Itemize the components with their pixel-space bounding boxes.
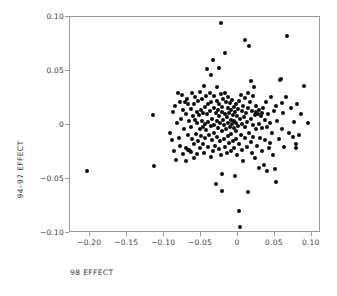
data-point: [249, 117, 253, 121]
data-point: [247, 44, 251, 48]
data-point: [219, 21, 223, 25]
data-point: [294, 146, 298, 150]
data-point: [241, 104, 245, 108]
x-tick-label: 0.10: [302, 238, 320, 247]
data-point: [302, 84, 306, 88]
data-point: [245, 120, 249, 124]
data-point: [175, 121, 179, 125]
data-point: [241, 159, 245, 163]
x-tick-label: −0.15: [114, 238, 138, 247]
data-point: [179, 117, 183, 121]
data-point: [268, 141, 272, 145]
y-tick-label: 0.10: [0, 12, 64, 21]
data-point: [299, 112, 303, 116]
data-point: [200, 97, 204, 101]
data-point: [266, 112, 270, 116]
data-point: [237, 99, 241, 103]
data-point: [211, 58, 215, 62]
data-point: [271, 153, 275, 157]
data-point: [210, 117, 214, 121]
data-point: [215, 85, 219, 89]
x-tick-mark: [89, 232, 90, 236]
data-point: [217, 66, 221, 70]
y-tick-mark: [65, 70, 69, 71]
data-point: [189, 150, 193, 154]
data-point: [297, 133, 301, 137]
data-point: [269, 95, 273, 99]
data-point: [234, 102, 238, 106]
data-point: [243, 96, 247, 100]
data-point: [285, 34, 289, 38]
data-point: [237, 209, 241, 213]
data-point: [292, 120, 296, 124]
data-point: [234, 129, 238, 133]
x-tick-label: 0: [234, 238, 239, 247]
data-point: [252, 85, 256, 89]
data-point: [235, 153, 239, 157]
data-point: [209, 73, 213, 77]
data-point: [295, 102, 299, 106]
data-point: [192, 142, 196, 146]
data-point: [260, 126, 264, 130]
data-point: [208, 109, 212, 113]
data-point: [212, 106, 216, 110]
data-point: [275, 119, 279, 123]
data-point: [194, 132, 198, 136]
data-point: [182, 127, 186, 131]
data-point: [284, 95, 288, 99]
data-point: [260, 149, 264, 153]
data-point: [265, 125, 269, 129]
data-point: [264, 100, 268, 104]
data-point: [274, 180, 278, 184]
data-point: [289, 106, 293, 110]
data-point: [254, 127, 258, 131]
data-point: [168, 131, 172, 135]
data-point: [233, 174, 237, 178]
data-point: [280, 101, 284, 105]
x-tick-label: −0.05: [188, 238, 212, 247]
data-point: [246, 190, 250, 194]
data-point: [187, 119, 191, 123]
data-point: [190, 91, 194, 95]
y-axis-label: 94–97 EFFECT: [16, 125, 25, 215]
data-point: [199, 134, 203, 138]
data-point: [214, 182, 218, 186]
data-point: [196, 139, 200, 143]
data-point: [178, 144, 182, 148]
data-point: [170, 138, 174, 142]
data-point: [257, 166, 261, 170]
data-point: [184, 159, 188, 163]
y-tick-label: 0: [0, 120, 64, 129]
data-point: [204, 94, 208, 98]
data-point: [173, 104, 177, 108]
x-tick-mark: [200, 232, 201, 236]
data-point: [172, 149, 176, 153]
y-tick-mark: [65, 178, 69, 179]
data-point: [270, 131, 274, 135]
data-point: [207, 133, 211, 137]
data-point: [174, 158, 178, 162]
x-axis-label: 98 EFFECT: [70, 268, 113, 277]
data-point: [186, 102, 190, 106]
data-point: [279, 77, 283, 81]
data-point: [210, 138, 214, 142]
data-point: [222, 137, 226, 141]
data-point: [240, 109, 244, 113]
data-point: [178, 100, 182, 104]
data-point: [177, 136, 181, 140]
data-points-layer: [70, 17, 319, 231]
data-point: [244, 111, 248, 115]
y-tick-label: −0.10: [0, 228, 64, 237]
data-point: [223, 91, 227, 95]
data-point: [230, 98, 234, 102]
data-point: [245, 145, 249, 149]
data-point: [274, 104, 278, 108]
data-point: [237, 142, 241, 146]
data-point: [254, 104, 258, 108]
data-point: [180, 93, 184, 97]
data-point: [198, 90, 202, 94]
data-point: [217, 147, 221, 151]
y-tick-mark: [65, 16, 69, 17]
data-point: [243, 136, 247, 140]
data-point: [280, 127, 284, 131]
